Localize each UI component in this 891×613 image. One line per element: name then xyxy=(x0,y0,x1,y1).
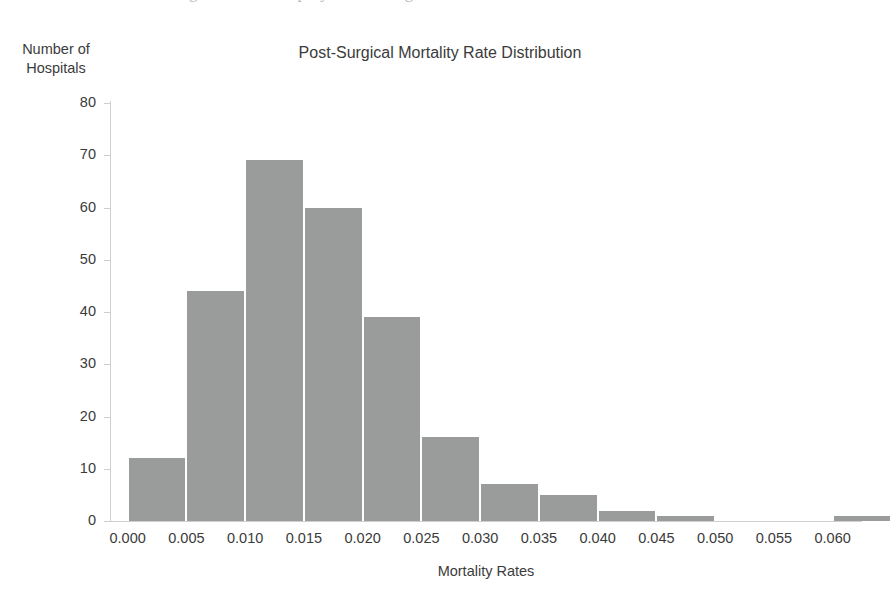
histogram-bar xyxy=(656,516,715,521)
y-tick-label: 80 xyxy=(44,94,96,110)
x-tick-label: 0.060 xyxy=(798,530,868,546)
y-tick-label: 30 xyxy=(44,355,96,371)
y-tick-label: 60 xyxy=(44,199,96,215)
x-axis-label: Mortality Rates xyxy=(110,563,862,579)
y-axis-label-line2: Hospitals xyxy=(8,59,104,78)
histogram-bar xyxy=(480,484,539,521)
histogram-bar xyxy=(833,516,891,521)
histogram-bar xyxy=(421,437,480,521)
y-tick-label: 0 xyxy=(44,512,96,528)
chart-title: Post-Surgical Mortality Rate Distributio… xyxy=(180,44,700,62)
y-tick-label: 40 xyxy=(44,303,96,319)
histogram-bar xyxy=(128,458,187,521)
histogram-bar xyxy=(598,511,657,521)
histogram-bar xyxy=(304,208,363,522)
y-tick-label: 10 xyxy=(44,460,96,476)
histogram-bar xyxy=(245,160,304,521)
histogram-bar xyxy=(363,317,422,521)
y-tick-mark xyxy=(104,521,111,522)
y-tick-label: 70 xyxy=(44,146,96,162)
y-axis-label: Number of Hospitals xyxy=(8,40,104,78)
y-axis-label-line1: Number of xyxy=(8,40,104,59)
histogram-bar xyxy=(186,291,245,521)
y-tick-label: 20 xyxy=(44,408,96,424)
plot-area xyxy=(110,103,862,521)
y-tick-label: 50 xyxy=(44,251,96,267)
histogram-bar xyxy=(539,495,598,521)
x-axis-line xyxy=(108,521,862,522)
